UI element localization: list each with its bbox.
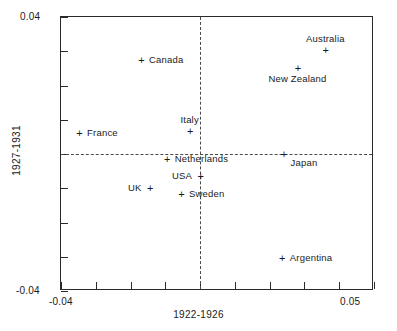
plot-area: +Australia+New Zealand+Canada+Italy+Fran… [60, 16, 373, 290]
x-axis-title: 1922-1926 [0, 309, 397, 320]
data-point-label: Sweden [189, 189, 225, 199]
plus-marker-icon: + [293, 64, 302, 73]
plus-marker-icon: + [280, 150, 289, 159]
data-point-label: France [87, 128, 118, 138]
y-axis-max-label: 0.04 [20, 11, 40, 22]
data-point-label: Netherlands [175, 154, 228, 164]
scatter-plot-figure: +Australia+New Zealand+Canada+Italy+Fran… [0, 0, 397, 331]
x-tick [339, 282, 340, 289]
x-tick [270, 282, 271, 289]
y-tick [61, 257, 68, 258]
y-tick [61, 223, 68, 224]
plus-marker-icon: + [186, 127, 195, 136]
y-tick [61, 120, 68, 121]
plus-marker-icon: + [137, 56, 146, 65]
data-point-label: Japan [291, 158, 318, 168]
plus-marker-icon: + [163, 155, 172, 164]
x-tick [165, 282, 166, 289]
y-tick [61, 86, 68, 87]
y-axis-min-label: -0.04 [16, 285, 40, 296]
y-tick [61, 51, 68, 52]
plus-marker-icon: + [177, 190, 186, 199]
plus-marker-icon: + [146, 184, 155, 193]
x-axis-min-label: -0.04 [49, 296, 73, 307]
x-tick [96, 282, 97, 289]
plus-marker-icon: + [75, 129, 84, 138]
plus-marker-icon: + [196, 172, 205, 181]
y-tick [61, 17, 68, 18]
x-tick [235, 282, 236, 289]
x-tick [61, 282, 62, 289]
data-point-label: New Zealand [268, 74, 326, 84]
x-tick [374, 282, 375, 289]
x-tick [131, 282, 132, 289]
x-tick [304, 282, 305, 289]
data-point-label: USA [172, 171, 192, 181]
y-tick [61, 291, 68, 292]
y-tick [61, 188, 68, 189]
data-point-label: Argentina [290, 253, 332, 263]
data-point-label: Australia [306, 34, 345, 44]
plus-marker-icon: + [278, 254, 287, 263]
data-point-label: Italy [180, 115, 198, 125]
data-point-label: Canada [149, 55, 183, 65]
data-point-label: UK [128, 183, 142, 193]
y-axis-title: 1927-1931 [11, 106, 22, 196]
x-axis-max-label: 0.05 [340, 296, 360, 307]
plus-marker-icon: + [321, 46, 330, 55]
